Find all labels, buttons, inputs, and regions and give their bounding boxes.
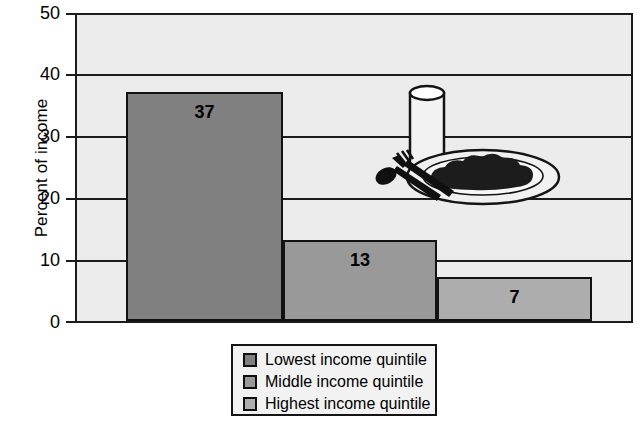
legend-item-highest[interactable]: Highest income quintile bbox=[243, 393, 435, 414]
y-tick-label-10: 10 bbox=[14, 251, 60, 269]
legend-label-middle: Middle income quintile bbox=[265, 374, 423, 390]
legend-swatch-middle-icon bbox=[243, 375, 257, 389]
bar-value-label-middle: 13 bbox=[285, 250, 435, 271]
bar-middle-income-quintile[interactable]: 13 bbox=[283, 240, 437, 321]
bar-value-label-highest: 7 bbox=[439, 287, 590, 308]
y-tick-label-50: 50 bbox=[14, 4, 60, 22]
bar-lowest-income-quintile[interactable]: 37 bbox=[126, 92, 283, 321]
legend-label-lowest: Lowest income quintile bbox=[265, 352, 427, 368]
legend-swatch-highest-icon bbox=[243, 397, 257, 411]
plot-area: 37 13 7 bbox=[75, 13, 633, 323]
y-tick-label-30: 30 bbox=[14, 127, 60, 145]
gridline-40 bbox=[77, 74, 631, 76]
y-tick-label-20: 20 bbox=[14, 189, 60, 207]
legend: Lowest income quintile Middle income qui… bbox=[231, 344, 437, 416]
legend-label-highest: Highest income quintile bbox=[265, 396, 430, 412]
y-tick-label-40: 40 bbox=[14, 65, 60, 83]
y-tick-label-0: 0 bbox=[14, 313, 60, 331]
bar-value-label-lowest: 37 bbox=[128, 102, 281, 123]
bar-chart-figure: Percent of income 50 40 30 20 10 0 37 13… bbox=[0, 0, 644, 436]
y-axis-tick-labels: 50 40 30 20 10 0 bbox=[14, 0, 60, 436]
bar-highest-income-quintile[interactable]: 7 bbox=[437, 277, 592, 321]
legend-item-middle[interactable]: Middle income quintile bbox=[243, 371, 435, 392]
legend-item-lowest[interactable]: Lowest income quintile bbox=[243, 349, 435, 370]
legend-swatch-lowest-icon bbox=[243, 353, 257, 367]
